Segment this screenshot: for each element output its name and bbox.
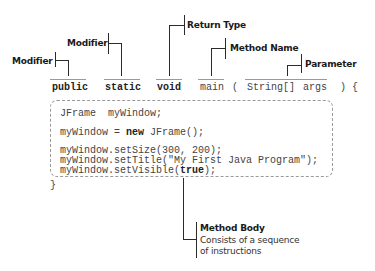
keyword-new: new — [126, 127, 144, 138]
code-param-type: String[] — [247, 82, 295, 93]
code-static: static — [105, 82, 141, 93]
underline-public — [50, 79, 86, 80]
code-void: void — [157, 82, 181, 93]
return-type-label: Return Type — [187, 20, 246, 30]
method-body-desc-1: Consists of a sequence — [200, 235, 299, 246]
code-close-paren-brace: ) { — [340, 82, 358, 93]
modifier-label-static: Modifier — [67, 38, 108, 48]
parameter-label: Parameter — [305, 59, 356, 69]
body-line-5-pre: myWindow.setVisible( — [60, 165, 180, 176]
closing-brace: } — [50, 180, 56, 191]
code-open-paren: ( — [232, 82, 238, 93]
method-body-desc-2: of instructions — [200, 246, 261, 257]
underline-static — [104, 79, 140, 80]
keyword-true: true — [180, 165, 204, 176]
body-line-5: myWindow.setVisible(true); — [60, 165, 216, 176]
modifier-label-public: Modifier — [12, 56, 53, 66]
body-line-1: JFrame myWindow; — [60, 108, 162, 119]
underline-void — [156, 79, 182, 80]
underline-main — [198, 79, 224, 80]
code-param-name: args — [303, 82, 327, 93]
method-body-label: Method Body — [200, 223, 265, 233]
underline-parameter — [245, 79, 327, 80]
body-line-5-post: ); — [204, 165, 216, 176]
body-line-2-pre: myWindow = — [60, 127, 126, 138]
body-line-2: myWindow = new JFrame(); — [60, 127, 204, 138]
method-name-label: Method Name — [230, 43, 298, 53]
body-line-2-post: JFrame(); — [144, 127, 204, 138]
code-public: public — [52, 82, 88, 93]
code-main: main — [200, 82, 224, 93]
